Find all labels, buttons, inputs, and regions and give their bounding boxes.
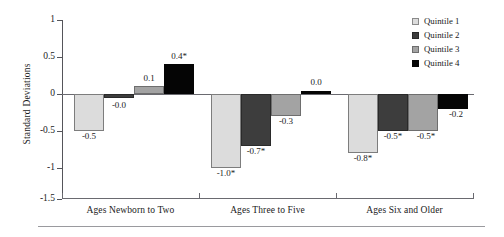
group-tick (336, 193, 337, 199)
bar-value-label: -0.7* (234, 147, 278, 156)
bar-g1-quintile-4[interactable] (301, 91, 331, 94)
bar-g0-quintile-2[interactable] (104, 94, 134, 98)
bar-value-label: -0.5 (67, 132, 111, 141)
bar-g2-quintile-2[interactable] (378, 94, 408, 131)
legend-label: Quintile 4 (424, 58, 459, 68)
y-axis-line (62, 20, 63, 199)
bar-g1-quintile-3[interactable] (271, 94, 301, 116)
y-tick-label: 0.5 (11, 51, 55, 61)
legend-swatch-quintile-4-icon (412, 60, 419, 67)
chart-figure: Standard Deviations 1 0.5 0 -0.5 -1 -1.5 (0, 0, 504, 237)
bar-g0-quintile-4[interactable] (164, 64, 194, 94)
bar-value-label: -0.2 (434, 110, 478, 119)
bar-value-label: 0.4* (157, 52, 201, 61)
legend-label: Quintile 3 (424, 44, 459, 54)
legend-label: Quintile 1 (424, 16, 459, 26)
bar-g2-quintile-1[interactable] (348, 94, 378, 153)
legend-item-quintile-3[interactable]: Quintile 3 (412, 42, 459, 56)
group-tick (62, 193, 63, 199)
bar-value-label: -0.3 (264, 117, 308, 126)
footer-rule (38, 226, 485, 227)
bar-value-label: -0.8* (341, 154, 385, 163)
bar-value-label: -0.0 (97, 101, 141, 110)
legend: Quintile 1 Quintile 2 Quintile 3 Quintil… (412, 14, 459, 70)
bar-g0-quintile-3[interactable] (134, 86, 164, 94)
bar-value-label: -0.5* (404, 132, 448, 141)
category-label-six-and-older: Ages Six and Older (336, 205, 473, 215)
legend-swatch-quintile-2-icon (412, 32, 419, 39)
bar-value-label: 0.0 (294, 78, 338, 87)
category-label-three-to-five: Ages Three to Five (199, 205, 336, 215)
bar-g1-quintile-1[interactable] (211, 94, 241, 168)
y-tick-label: -1 (11, 162, 55, 172)
y-tick-label: -1.5 (11, 193, 55, 203)
bar-g2-quintile-4[interactable] (438, 94, 468, 109)
bar-value-label: -1.0* (204, 169, 248, 178)
legend-item-quintile-4[interactable]: Quintile 4 (412, 56, 459, 70)
category-label-newborn-to-two: Ages Newborn to Two (62, 205, 199, 215)
legend-item-quintile-2[interactable]: Quintile 2 (412, 28, 459, 42)
legend-swatch-quintile-1-icon (412, 18, 419, 25)
x-axis-line (62, 198, 474, 199)
group-tick (199, 193, 200, 199)
bar-g0-quintile-1[interactable] (74, 94, 104, 131)
legend-swatch-quintile-3-icon (412, 46, 419, 53)
y-tick-label: 0 (11, 88, 55, 98)
y-tick-label: 1 (11, 14, 55, 24)
group-tick (473, 193, 474, 199)
legend-item-quintile-1[interactable]: Quintile 1 (412, 14, 459, 28)
legend-label: Quintile 2 (424, 30, 459, 40)
y-tick-label: -0.5 (11, 125, 55, 135)
